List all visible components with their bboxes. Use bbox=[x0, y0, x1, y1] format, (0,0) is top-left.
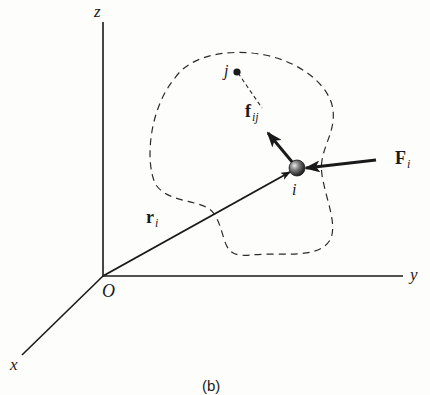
body-boundary-dashed bbox=[150, 52, 333, 255]
external-force-symbol: F bbox=[395, 148, 406, 168]
z-axis-label: z bbox=[94, 3, 101, 20]
y-axis-label: y bbox=[410, 266, 418, 283]
internal-force-f-ij bbox=[268, 133, 293, 163]
position-vector-symbol: r bbox=[146, 207, 154, 227]
figure-caption: (b) bbox=[202, 378, 220, 393]
external-force-F-i bbox=[306, 160, 376, 168]
particle-i-sphere bbox=[289, 160, 305, 176]
position-vector-label: ri bbox=[146, 208, 158, 229]
internal-force-label: fij bbox=[245, 102, 259, 123]
position-vector-r-i bbox=[103, 172, 290, 276]
particle-j-dot bbox=[233, 68, 240, 75]
position-vector-subscript: i bbox=[155, 216, 158, 230]
particle-i-label: i bbox=[292, 182, 296, 198]
x-axis bbox=[22, 276, 103, 355]
internal-force-symbol: f bbox=[245, 101, 251, 121]
origin-label: O bbox=[102, 282, 115, 300]
free-body-diagram: z y x O ri fij Fi j i (b) bbox=[0, 0, 430, 395]
external-force-subscript: i bbox=[407, 157, 410, 171]
internal-force-subscript: ij bbox=[252, 110, 259, 124]
external-force-label: Fi bbox=[395, 149, 410, 170]
x-axis-label: x bbox=[10, 356, 18, 373]
particle-j-label: j bbox=[224, 63, 228, 79]
